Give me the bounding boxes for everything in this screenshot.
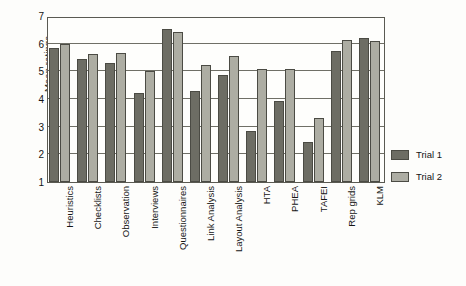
x-axis-tick-labels: HeuristicsChecklistsObservationInterview… [47, 186, 385, 282]
x-tick-label: Rep grids [347, 186, 357, 282]
y-tick-label: 4 [22, 95, 44, 105]
x-tick-label: Layout Analysis [234, 186, 244, 282]
bar [145, 71, 155, 182]
bar [116, 53, 126, 182]
chart-legend: Trial 1Trial 2 [391, 144, 463, 188]
bar [285, 69, 295, 182]
bar-group [217, 18, 245, 182]
bar [162, 29, 172, 182]
bar [60, 44, 70, 182]
bar [314, 118, 324, 182]
bar [229, 56, 239, 182]
bar [342, 40, 352, 182]
bar [105, 63, 115, 182]
bar [359, 38, 369, 182]
x-tick-label: Observation [121, 186, 131, 282]
bar-group [273, 18, 301, 182]
bar-group [161, 18, 189, 182]
bar [370, 41, 380, 182]
legend-item: Trial 2 [391, 166, 463, 188]
x-tick-label: Link Analysis [206, 186, 216, 282]
bar-group [302, 18, 330, 182]
x-tick-label: KLM [375, 186, 385, 282]
bar-group [104, 18, 132, 182]
bar [257, 69, 267, 182]
bar [246, 131, 256, 182]
x-tick-label: Interviews [150, 186, 160, 282]
bar [274, 101, 284, 182]
bar-group [245, 18, 273, 182]
bar-group [358, 18, 386, 182]
x-tick-label: Heuristics [65, 186, 75, 282]
y-tick-label: 3 [22, 123, 44, 133]
legend-label: Trial 2 [416, 172, 442, 182]
bar [303, 142, 313, 182]
x-tick-label: HTA [262, 186, 272, 282]
bar [218, 75, 228, 182]
bar-group [189, 18, 217, 182]
x-tick-label: PHEA [290, 186, 300, 282]
bar [88, 54, 98, 182]
y-tick-label: 6 [22, 40, 44, 50]
bar-chart-figure: Mean ratings 7654321 HeuristicsChecklist… [0, 0, 466, 286]
bar [190, 91, 200, 182]
y-tick-label: 5 [22, 67, 44, 77]
bar [49, 48, 59, 182]
y-tick-label: 7 [22, 12, 44, 22]
y-tick-label: 2 [22, 150, 44, 160]
x-tick-label: Checklists [93, 186, 103, 282]
legend-swatch-icon [391, 172, 409, 182]
x-tick-label: TAFEI [319, 186, 329, 282]
bar [331, 51, 341, 182]
legend-label: Trial 1 [416, 150, 442, 160]
bar-group [76, 18, 104, 182]
legend-swatch-icon [391, 150, 409, 160]
bar [173, 32, 183, 182]
bar [77, 59, 87, 182]
y-tick-label: 1 [22, 178, 44, 188]
bar [134, 93, 144, 182]
x-tick-label: Questionnaires [178, 186, 188, 282]
bar [201, 65, 211, 182]
plot-area [47, 17, 385, 183]
legend-item: Trial 1 [391, 144, 463, 166]
bar-group [48, 18, 76, 182]
bar-group [133, 18, 161, 182]
bar-series-container [48, 18, 384, 182]
bar-group [330, 18, 358, 182]
